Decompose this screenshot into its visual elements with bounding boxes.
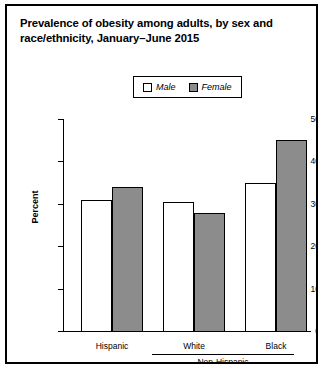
- chart-figure: Prevalence of obesity among adults, by s…: [5, 4, 318, 364]
- y-tick-50: [58, 119, 63, 120]
- x-group-label-non-hispanic: Non-Hispanic: [152, 357, 294, 364]
- y-tick-40: [58, 161, 63, 162]
- y-axis-line: [63, 119, 64, 332]
- non-hispanic-bracket-line: [152, 354, 294, 355]
- plot-area: 50 40 30 20 10 0 Percent Hispanic White …: [7, 6, 318, 364]
- y-tick-0: [58, 331, 63, 332]
- y-axis-label: Percent: [30, 177, 40, 237]
- bar-black-female: [276, 140, 307, 332]
- y-tick-10: [58, 289, 63, 290]
- x-label-black: Black: [236, 341, 316, 351]
- bar-black-male: [245, 183, 276, 332]
- bar-hispanic-male: [81, 200, 112, 332]
- bar-hispanic-female: [112, 187, 143, 332]
- bar-white-female: [194, 213, 225, 332]
- y-tick-label-50: 50: [274, 114, 318, 124]
- bar-white-male: [163, 202, 194, 332]
- x-label-white: White: [154, 341, 234, 351]
- y-tick-30: [58, 204, 63, 205]
- y-tick-20: [58, 246, 63, 247]
- x-label-hispanic: Hispanic: [72, 341, 152, 351]
